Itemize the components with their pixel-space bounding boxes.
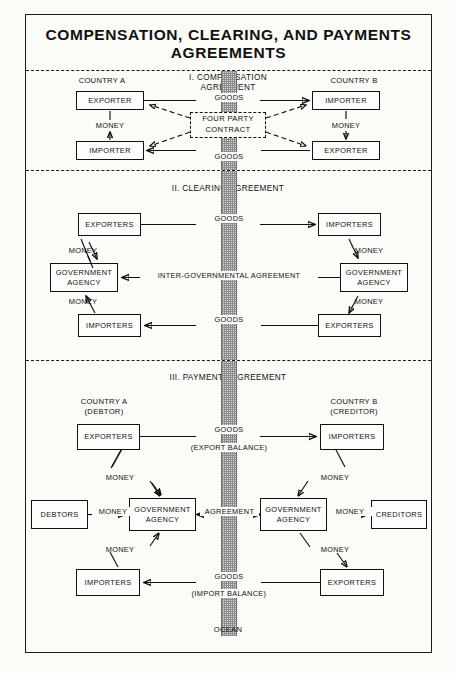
s1-box-right-importer-label: IMPORTER (325, 96, 367, 105)
s2-box-left-gov-agency-line1: GOVERNMENT (56, 268, 112, 277)
s3-money-creditors-label: MONEY (327, 507, 373, 516)
s3-country-a-line1: COUNTRY A (62, 397, 146, 406)
s3-country-b-line1: COUNTRY B (312, 397, 396, 406)
s2-box-right-gov-agency-line1: GOVERNMENT (346, 268, 402, 277)
s1-box-left-importer[interactable]: IMPORTER (76, 141, 144, 160)
s1-goods-top-label: GOODS (198, 93, 260, 102)
s3-box-left-exporters[interactable]: EXPORTERS (77, 424, 140, 450)
s3-box-right-gov-agency-line1: GOVERNMENT (265, 505, 321, 514)
s3-box-creditors[interactable]: CREDITORS (371, 500, 427, 529)
s3-country-b-line2: (CREDITOR) (312, 407, 396, 416)
s3-box-left-gov-agency[interactable]: GOVERNMENT AGENCY (129, 498, 196, 531)
s1-box-right-exporter[interactable]: EXPORTER (312, 141, 380, 160)
s2-box-right-exporters-label: EXPORTERS (325, 321, 374, 330)
s2-box-right-exporters[interactable]: EXPORTERS (318, 314, 381, 337)
s3-money-debtors-label: MONEY (92, 507, 134, 516)
s2-money-right-top-label: MONEY (346, 246, 392, 255)
s2-box-right-importers-label: IMPORTERS (326, 220, 373, 229)
page-title: COMPENSATION, CLEARING, AND PAYMENTS AGR… (26, 26, 431, 62)
s3-goods-top-sub-label: (EXPORT BALANCE) (186, 443, 272, 452)
s3-goods-bottom-label: GOODS (198, 572, 260, 581)
ocean-strip-section-2 (221, 171, 237, 360)
s2-box-left-exporters[interactable]: EXPORTERS (78, 213, 141, 236)
s3-money-left-bottom-label: MONEY (97, 545, 143, 554)
s1-box-left-exporter[interactable]: EXPORTER (76, 91, 144, 110)
s3-box-right-exporters-label: EXPORTERS (328, 578, 377, 587)
s2-box-left-exporters-label: EXPORTERS (85, 220, 134, 229)
s1-four-party-contract-line2: CONTRACT (206, 125, 251, 136)
s3-box-left-exporters-label: EXPORTERS (84, 432, 133, 441)
section-1-country-a-label: COUNTRY A (60, 76, 144, 85)
s3-box-left-gov-agency-line2: AGENCY (146, 515, 179, 524)
s2-box-right-importers[interactable]: IMPORTERS (318, 213, 381, 236)
s1-money-right-label: MONEY (316, 121, 376, 130)
s2-box-left-importers[interactable]: IMPORTERS (78, 314, 141, 337)
s3-money-right-bottom-label: MONEY (312, 545, 358, 554)
s2-box-left-importers-label: IMPORTERS (86, 321, 133, 330)
s2-intergov-agreement-label: INTER-GOVERNMENTAL AGREEMENT (140, 271, 318, 280)
s1-four-party-contract-box[interactable]: FOUR PARTY CONTRACT (190, 112, 266, 138)
s2-money-right-bottom-label: MONEY (346, 297, 392, 306)
s1-box-right-importer[interactable]: IMPORTER (312, 91, 380, 110)
s3-box-right-importers-label: IMPORTERS (329, 432, 376, 441)
s2-box-left-gov-agency[interactable]: GOVERNMENT AGENCY (50, 263, 118, 292)
s1-money-left-label: MONEY (80, 121, 140, 130)
s3-money-right-top-label: MONEY (312, 473, 358, 482)
s3-goods-top-label: GOODS (198, 425, 260, 434)
section-1-country-b-label: COUNTRY B (312, 76, 396, 85)
diagram-sheet: COMPENSATION, CLEARING, AND PAYMENTS AGR… (0, 0, 456, 673)
s3-box-creditors-label: CREDITORS (376, 510, 423, 519)
s2-box-left-gov-agency-line2: AGENCY (67, 278, 100, 287)
s3-box-debtors[interactable]: DEBTORS (31, 500, 88, 529)
s3-box-left-gov-agency-line1: GOVERNMENT (134, 505, 190, 514)
s3-country-a-line2: (DEBTOR) (62, 407, 146, 416)
s3-agreement-label: AGREEMENT (200, 507, 259, 516)
s3-box-right-gov-agency[interactable]: GOVERNMENT AGENCY (260, 498, 327, 531)
s2-goods-top-label: GOODS (198, 214, 260, 223)
s3-box-left-importers[interactable]: IMPORTERS (76, 569, 140, 596)
ocean-label: OCEAN (198, 625, 258, 634)
s1-four-party-contract-line1: FOUR PARTY (202, 114, 254, 125)
s3-box-right-gov-agency-line2: AGENCY (277, 515, 310, 524)
s1-box-left-importer-label: IMPORTER (89, 146, 131, 155)
s3-box-right-exporters[interactable]: EXPORTERS (320, 569, 384, 596)
s2-goods-bottom-label: GOODS (198, 315, 260, 324)
s2-money-left-bottom-label: MONEY (60, 297, 106, 306)
s3-goods-bottom-sub-label: (IMPORT BALANCE) (186, 589, 272, 598)
s3-box-debtors-label: DEBTORS (40, 510, 78, 519)
s1-box-right-exporter-label: EXPORTER (324, 146, 367, 155)
s1-goods-bottom-label: GOODS (198, 152, 260, 161)
s3-box-right-importers[interactable]: IMPORTERS (320, 424, 384, 450)
s3-money-left-top-label: MONEY (97, 473, 143, 482)
s2-money-left-top-label: MONEY (60, 246, 106, 255)
s1-box-left-exporter-label: EXPORTER (88, 96, 131, 105)
s3-box-left-importers-label: IMPORTERS (85, 578, 132, 587)
s2-box-right-gov-agency-line2: AGENCY (357, 278, 390, 287)
s2-box-right-gov-agency[interactable]: GOVERNMENT AGENCY (340, 263, 408, 292)
